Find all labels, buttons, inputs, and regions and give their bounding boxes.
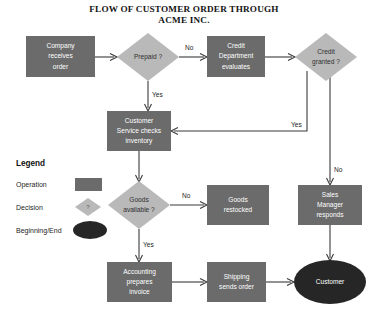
goods-restocked-shape[interactable] xyxy=(207,185,269,225)
edge-label-goods-available-no: No xyxy=(182,192,191,199)
goods-available-line-2: available ? xyxy=(123,206,155,213)
customer-service-line-2: Service checks xyxy=(117,127,162,134)
customer-service-line-1: Customer xyxy=(125,117,154,124)
prepaid-label: Prepaid ? xyxy=(134,53,163,61)
accounting-line-3: invoice xyxy=(129,288,150,295)
edge-label-prepaid-yes: Yes xyxy=(152,91,163,98)
edge-prepaid-yes-to-customer-service xyxy=(145,81,152,111)
node-shipping-sends-order[interactable]: Shipping sends order xyxy=(207,262,266,302)
credit-department-evaluates-line-2: Department xyxy=(219,52,254,60)
edge-credit-dept-to-credit-granted xyxy=(265,54,295,61)
legend-swatch-beginning-end xyxy=(73,221,107,239)
credit-granted-shape[interactable] xyxy=(295,33,357,81)
edge-goods-available-no-to-goods-restocked xyxy=(170,202,207,209)
edge-credit-granted-yes-to-customer-service xyxy=(171,71,307,135)
chart-title-line-2: ACME INC. xyxy=(158,15,209,25)
company-receives-order-line-1: Company xyxy=(46,42,75,50)
edge-label-credit-granted-no: No xyxy=(334,166,343,173)
node-goods-available[interactable]: Goods available ? xyxy=(108,181,170,229)
goods-available-line-1: Goods xyxy=(129,196,149,203)
sales-manager-line-3: responds xyxy=(316,211,344,219)
shipping-line-2: sends order xyxy=(219,283,255,290)
credit-department-evaluates-line-3: evaluates xyxy=(222,63,251,70)
node-prepaid[interactable]: Prepaid ? xyxy=(117,33,179,81)
legend-label-decision: Decision xyxy=(16,204,43,211)
edges-layer xyxy=(95,54,334,286)
legend-heading: Legend xyxy=(16,159,45,168)
customer-service-line-3: inventory xyxy=(126,137,153,145)
credit-department-evaluates-line-1: Credit xyxy=(227,42,245,49)
node-goods-restocked[interactable]: Goods restocked xyxy=(207,185,269,225)
node-customer-service-checks-inventory[interactable]: Customer Service checks inventory xyxy=(107,111,171,151)
node-sales-manager-responds[interactable]: Sales Manager responds xyxy=(298,185,362,225)
flowchart-page: FLOW OF CUSTOMER ORDER THROUGH ACME INC. xyxy=(0,0,368,312)
legend-item-operation: Operation xyxy=(16,178,102,191)
node-customer[interactable]: Customer xyxy=(294,260,366,304)
sales-manager-line-2: Manager xyxy=(317,201,344,209)
credit-granted-line-1: Credit xyxy=(317,48,335,55)
edge-label-goods-available-yes: Yes xyxy=(143,241,154,248)
accounting-line-2: prepares xyxy=(126,278,153,286)
node-credit-department-evaluates[interactable]: Credit Department evaluates xyxy=(207,36,265,77)
node-credit-granted[interactable]: Credit granted ? xyxy=(295,33,357,81)
customer-label: Customer xyxy=(316,278,345,285)
credit-granted-line-2: granted ? xyxy=(312,58,340,66)
legend-label-beginning-end: Beginning/End xyxy=(16,227,62,235)
edge-customer-service-to-goods-available xyxy=(136,150,143,182)
edge-label-prepaid-no: No xyxy=(185,44,194,51)
shipping-line-1: Shipping xyxy=(224,273,250,281)
edge-accounting-to-shipping xyxy=(172,279,207,286)
legend-label-operation: Operation xyxy=(16,181,47,189)
edge-sales-manager-to-customer xyxy=(327,225,334,261)
node-company-receives-order[interactable]: Company receives order xyxy=(26,36,95,77)
edge-goods-available-yes-to-accounting xyxy=(136,229,143,262)
company-receives-order-line-3: order xyxy=(53,63,69,70)
sales-manager-line-1: Sales xyxy=(322,191,339,198)
flowchart-canvas: FLOW OF CUSTOMER ORDER THROUGH ACME INC. xyxy=(0,0,368,312)
legend-swatch-operation xyxy=(75,178,102,191)
edge-order-to-prepaid xyxy=(95,54,117,61)
legend-item-decision: Decision ? xyxy=(16,198,101,216)
edge-label-credit-granted-yes: Yes xyxy=(291,121,302,128)
goods-restocked-line-2: restocked xyxy=(224,206,253,213)
company-receives-order-line-2: receives xyxy=(48,52,73,59)
edge-prepaid-no-to-credit-dept xyxy=(179,54,207,61)
accounting-line-1: Accounting xyxy=(123,268,156,276)
chart-title-line-1: FLOW OF CUSTOMER ORDER THROUGH xyxy=(89,4,278,14)
node-accounting-prepares-invoice[interactable]: Accounting prepares invoice xyxy=(107,262,172,302)
edge-credit-granted-no-to-sales-manager xyxy=(327,71,334,185)
legend-item-beginning-end: Beginning/End xyxy=(16,221,107,239)
edge-shipping-to-customer xyxy=(266,279,294,286)
legend: Legend Operation Decision ? Beginning/En… xyxy=(16,159,107,239)
goods-restocked-line-1: Goods xyxy=(228,196,248,203)
goods-available-shape[interactable] xyxy=(108,181,170,229)
